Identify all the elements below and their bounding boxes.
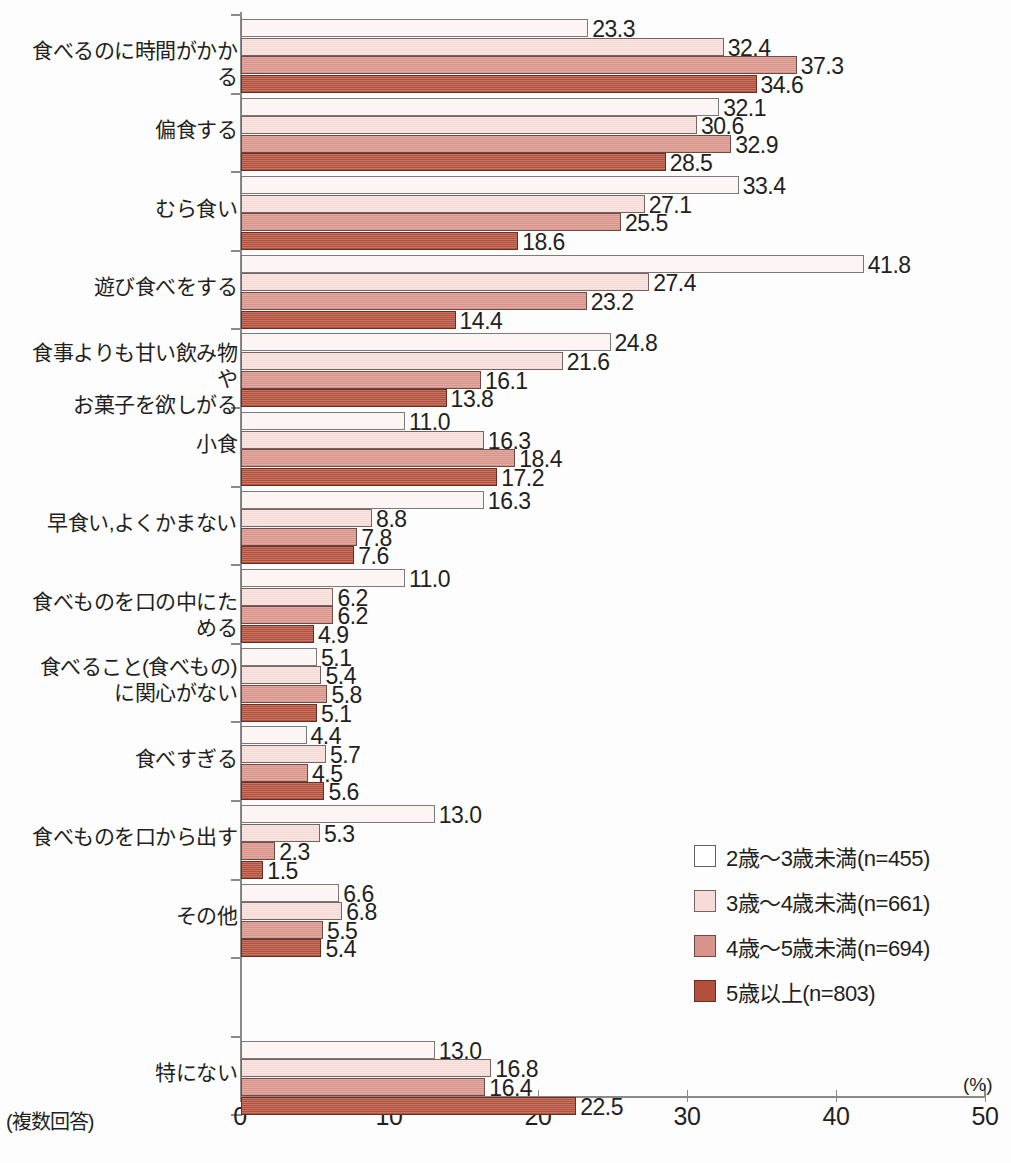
category-label-line: 食べるのに時間がかかる xyxy=(13,38,237,90)
bar-value-label: 5.6 xyxy=(328,783,358,801)
category-label-line: 食べること(食べもの) xyxy=(13,654,237,680)
category-label: 偏食する xyxy=(13,117,251,143)
category-label: 食事よりも甘い飲み物やお菓子を欲しがる xyxy=(13,340,251,418)
legend-label: 5歳以上(n=803) xyxy=(726,975,875,1007)
category-label: 食べるのに時間がかかる xyxy=(13,38,251,90)
bar xyxy=(241,1059,491,1077)
category-label-line: 遊び食べをする xyxy=(13,274,237,300)
value-tick xyxy=(687,1090,688,1102)
category-tick xyxy=(231,171,242,173)
category-label: むら食い xyxy=(13,196,251,222)
category-tick xyxy=(231,879,242,881)
bar xyxy=(241,449,515,467)
bar xyxy=(241,569,405,587)
value-tick-label: 40 xyxy=(823,1102,850,1131)
legend-item[interactable]: 5歳以上(n=803) xyxy=(694,968,930,1013)
bar xyxy=(241,764,308,782)
value-tick-label: 50 xyxy=(972,1102,999,1131)
category-label-line: むら食い xyxy=(13,196,237,222)
category-label: 特にない xyxy=(13,1060,251,1086)
category-label: 食べること(食べもの)に関心がない xyxy=(13,654,251,706)
bar xyxy=(241,333,611,351)
category-label-line: 特にない xyxy=(13,1060,237,1086)
bar-value-label: 37.3 xyxy=(801,57,844,75)
bar-value-label: 27.4 xyxy=(653,274,696,292)
bar-value-label: 14.4 xyxy=(460,312,503,330)
value-tick-label: 30 xyxy=(674,1102,701,1131)
bar xyxy=(241,255,864,273)
bar-value-label: 16.3 xyxy=(488,492,531,510)
legend-swatch-icon xyxy=(694,890,716,912)
category-label: 食べすぎる xyxy=(13,746,251,772)
category-tick xyxy=(231,93,242,95)
category-tick xyxy=(231,721,242,723)
bar xyxy=(241,782,324,800)
category-label-line: 偏食する xyxy=(13,117,237,143)
category-tick xyxy=(231,564,242,566)
bar-value-label: 13.0 xyxy=(439,1042,482,1060)
category-tick xyxy=(231,643,242,645)
bar xyxy=(241,116,697,134)
category-tick xyxy=(231,800,242,802)
bar xyxy=(241,1097,576,1115)
bar xyxy=(241,311,456,329)
category-tick xyxy=(231,328,242,330)
bar xyxy=(241,685,327,703)
bar xyxy=(241,921,323,939)
bar-value-label: 5.3 xyxy=(324,825,354,843)
legend-swatch-icon xyxy=(694,980,716,1002)
bar xyxy=(241,153,666,171)
legend-label: 3歳〜4歳未満(n=661) xyxy=(726,885,930,917)
category-tick xyxy=(231,957,242,959)
value-tick xyxy=(836,1090,837,1102)
bar-value-label: 11.0 xyxy=(409,570,450,588)
multiple-answer-note: (複数回答) xyxy=(6,1106,93,1135)
legend-item[interactable]: 3歳〜4歳未満(n=661) xyxy=(694,878,930,923)
bar xyxy=(241,648,317,666)
bar-value-label: 7.6 xyxy=(358,547,388,565)
bar-value-label: 1.5 xyxy=(267,862,297,880)
legend-swatch-icon xyxy=(694,845,716,867)
bar xyxy=(241,939,321,957)
legend: 2歳〜3歳未満(n=455)3歳〜4歳未満(n=661)4歳〜5歳未満(n=69… xyxy=(694,833,930,1013)
bar xyxy=(241,75,757,93)
bar-value-label: 33.4 xyxy=(743,177,786,195)
legend-item[interactable]: 2歳〜3歳未満(n=455) xyxy=(694,833,930,878)
bar-value-label: 24.8 xyxy=(615,334,658,352)
category-tick xyxy=(231,14,242,16)
bar-value-label: 5.1 xyxy=(321,705,351,723)
bar xyxy=(241,726,307,744)
legend-item[interactable]: 4歳〜5歳未満(n=694) xyxy=(694,923,930,968)
bar xyxy=(241,98,719,116)
bar-value-label: 5.4 xyxy=(325,940,355,958)
category-label-line: 早食い,よくかまない xyxy=(13,510,237,536)
category-label: その他 xyxy=(13,903,251,929)
category-label-line: その他 xyxy=(13,903,237,929)
bar-value-label: 13.0 xyxy=(439,806,482,824)
category-label-line: 食事よりも甘い飲み物や xyxy=(13,340,237,392)
axis-unit-label: (%) xyxy=(963,1074,993,1096)
bar-value-label: 41.8 xyxy=(868,256,911,274)
category-label: 食べものを口の中にためる xyxy=(13,589,251,641)
category-tick xyxy=(231,1036,242,1038)
bar-value-label: 18.6 xyxy=(522,233,565,251)
bar xyxy=(241,588,333,606)
bar xyxy=(241,38,724,56)
bar-value-label: 17.2 xyxy=(501,469,544,487)
bar xyxy=(241,509,372,527)
bar-value-label: 32.4 xyxy=(728,39,771,57)
bar xyxy=(241,1078,485,1096)
category-label-line: 食べものを口の中にためる xyxy=(13,589,237,641)
bar-value-label: 4.9 xyxy=(318,626,348,644)
bar xyxy=(241,371,481,389)
category-label-line: 食べすぎる xyxy=(13,746,237,772)
bar xyxy=(241,666,321,684)
legend-label: 4歳〜5歳未満(n=694) xyxy=(726,930,930,962)
bar-value-label: 21.6 xyxy=(567,353,610,371)
bar-value-label: 34.6 xyxy=(761,76,804,94)
bar-value-label: 32.9 xyxy=(735,136,778,154)
bar xyxy=(241,292,587,310)
category-label-line: 食べものを口から出す xyxy=(13,824,237,850)
bar xyxy=(241,135,731,153)
category-label: 小食 xyxy=(13,431,251,457)
